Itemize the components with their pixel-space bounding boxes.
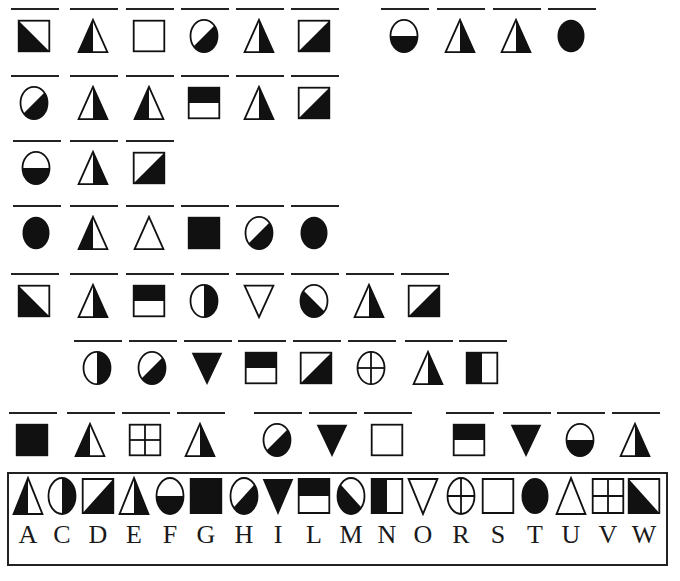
square-diagonal-lower-right-filled-icon xyxy=(406,283,442,319)
answer-blank-line xyxy=(67,412,115,414)
inverted-triangle-filled-icon xyxy=(189,350,225,386)
square-diagonal-lower-left-filled-icon xyxy=(16,18,52,54)
triangle-left-half-filled-icon xyxy=(72,422,108,458)
triangle-right-half-filled-icon xyxy=(75,85,111,121)
square-diagonal-lower-right-filled-icon xyxy=(296,85,332,121)
inverted-triangle-filled-icon xyxy=(314,422,350,458)
answer-blank-line xyxy=(126,75,174,77)
answer-blank-line xyxy=(9,412,57,414)
square-diagonal-lower-right-filled-icon xyxy=(131,150,167,186)
answer-blank-line xyxy=(503,412,551,414)
answer-blank-line xyxy=(291,273,339,275)
square-left-half-filled-icon xyxy=(464,350,500,386)
circle-bottom-half-filled-icon xyxy=(386,18,422,54)
answer-blank-line xyxy=(70,8,118,10)
circle-filled-icon xyxy=(296,215,332,251)
answer-blank-line xyxy=(126,273,174,275)
answer-blank-line xyxy=(126,140,174,142)
answer-blank-line xyxy=(557,412,605,414)
square-top-half-filled-icon xyxy=(451,422,487,458)
circle-diagonal-lower-right-filled-icon xyxy=(134,350,170,386)
answer-blank-line xyxy=(236,8,284,10)
square-outline-icon xyxy=(131,18,167,54)
answer-blank-line xyxy=(405,340,453,342)
square-top-half-filled-icon xyxy=(243,350,279,386)
triangle-right-half-filled-icon xyxy=(241,85,277,121)
answer-blank-line xyxy=(346,273,394,275)
circle-right-half-filled-icon xyxy=(186,283,222,319)
answer-blank-line xyxy=(181,75,229,77)
inverted-triangle-filled-icon xyxy=(508,422,544,458)
answer-blank-line xyxy=(446,412,494,414)
triangle-right-half-filled-icon xyxy=(498,18,534,54)
answer-blank-line xyxy=(13,205,61,207)
circle-diagonal-lower-right-filled-icon xyxy=(16,85,52,121)
circle-bottom-half-filled-icon xyxy=(562,422,598,458)
answer-blank-line xyxy=(129,340,177,342)
answer-blank-line xyxy=(126,205,174,207)
circle-bottom-half-filled-icon xyxy=(18,150,54,186)
answer-blank-line xyxy=(437,8,485,10)
answer-blank-line xyxy=(177,412,225,414)
triangle-outline-icon xyxy=(131,215,167,251)
answer-blank-line xyxy=(291,75,339,77)
answer-blank-line xyxy=(236,273,284,275)
answer-blank-line xyxy=(612,412,660,414)
inverted-triangle-outline-icon xyxy=(241,283,277,319)
answer-blank-line xyxy=(70,140,118,142)
circle-crossed-icon xyxy=(353,350,389,386)
cipher-key-box xyxy=(7,472,668,566)
triangle-right-half-filled-icon xyxy=(617,422,653,458)
answer-blank-line xyxy=(13,140,61,142)
triangle-right-half-filled-icon xyxy=(75,283,111,319)
answer-blank-line xyxy=(364,412,412,414)
triangle-right-half-filled-icon xyxy=(351,283,387,319)
answer-blank-line xyxy=(70,273,118,275)
answer-blank-line xyxy=(11,75,59,77)
answer-blank-line xyxy=(381,8,429,10)
answer-blank-line xyxy=(236,75,284,77)
triangle-right-half-filled-icon xyxy=(182,422,218,458)
square-diagonal-lower-right-filled-icon xyxy=(296,18,332,54)
answer-blank-line xyxy=(309,412,357,414)
answer-blank-line xyxy=(122,412,170,414)
square-diagonal-lower-right-filled-icon xyxy=(298,350,334,386)
answer-blank-line xyxy=(70,205,118,207)
circle-right-half-filled-icon xyxy=(79,350,115,386)
triangle-right-half-filled-icon xyxy=(410,350,446,386)
square-crossed-icon xyxy=(127,422,163,458)
square-top-half-filled-icon xyxy=(186,85,222,121)
square-filled-icon xyxy=(14,422,50,458)
circle-filled-icon xyxy=(18,215,54,251)
triangle-right-half-filled-icon xyxy=(75,150,111,186)
square-outline-icon xyxy=(369,422,405,458)
circle-diagonal-lower-right-filled-icon xyxy=(259,422,295,458)
triangle-left-half-filled-icon xyxy=(75,18,111,54)
answer-blank-line xyxy=(70,75,118,77)
answer-blank-line xyxy=(238,340,286,342)
answer-blank-line xyxy=(181,205,229,207)
answer-blank-line xyxy=(181,273,229,275)
answer-blank-line xyxy=(548,8,596,10)
answer-blank-line xyxy=(348,340,396,342)
answer-blank-line xyxy=(459,340,507,342)
triangle-left-half-filled-icon xyxy=(75,215,111,251)
triangle-right-half-filled-icon xyxy=(241,18,277,54)
answer-blank-line xyxy=(293,340,341,342)
answer-blank-line xyxy=(74,340,122,342)
circle-diagonal-lower-right-filled-icon xyxy=(186,18,222,54)
triangle-right-half-filled-icon xyxy=(442,18,478,54)
answer-blank-line xyxy=(401,273,449,275)
answer-blank-line xyxy=(11,273,59,275)
answer-blank-line xyxy=(254,412,302,414)
triangle-left-half-filled-icon xyxy=(131,85,167,121)
answer-blank-line xyxy=(291,8,339,10)
answer-blank-line xyxy=(184,340,232,342)
circle-diagonal-lower-right-filled-icon xyxy=(241,215,277,251)
answer-blank-line xyxy=(236,205,284,207)
answer-blank-line xyxy=(11,8,59,10)
circle-filled-icon xyxy=(553,18,589,54)
answer-blank-line xyxy=(493,8,541,10)
square-top-half-filled-icon xyxy=(131,283,167,319)
circle-diagonal-lower-left-filled-icon xyxy=(296,283,332,319)
